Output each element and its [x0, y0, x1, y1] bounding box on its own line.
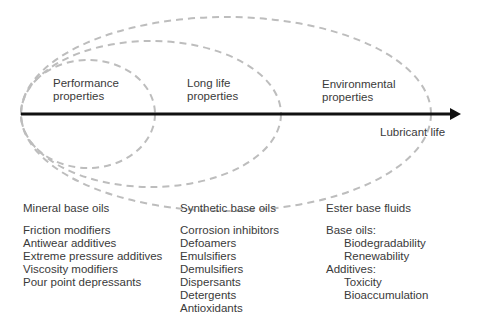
list-item: Antioxidants: [180, 302, 279, 315]
long-life-label: Long life properties: [187, 77, 238, 103]
list-item: Toxicity: [326, 276, 428, 289]
list-item: Biodegradability: [326, 237, 428, 250]
ester-column: Ester base fluids Base oils: Biodegradab…: [326, 202, 428, 302]
list-item: Friction modifiers: [23, 224, 162, 237]
column-heading: Synthetic base oils: [180, 202, 279, 215]
axis-label: Lubricant life: [380, 126, 445, 139]
list-item: Renewability: [326, 250, 428, 263]
list-item: Detergents: [180, 289, 279, 302]
environmental-label: Environmental properties: [322, 78, 396, 104]
environmental-label-line2: properties: [322, 91, 396, 104]
mineral-column: Mineral base oils Friction modifiers Ant…: [23, 202, 162, 289]
column-heading: Ester base fluids: [326, 202, 428, 215]
environmental-label-line1: Environmental: [322, 78, 396, 91]
list-item: Additives:: [326, 263, 428, 276]
list-item: Extreme pressure additives: [23, 250, 162, 263]
synthetic-column: Synthetic base oils Corrosion inhibitors…: [180, 202, 279, 315]
list-item: Emulsifiers: [180, 250, 279, 263]
list-item: Defoamers: [180, 237, 279, 250]
column-heading: Mineral base oils: [23, 202, 162, 215]
list-item: Base oils:: [326, 224, 428, 237]
list-item: Viscosity modifiers: [23, 263, 162, 276]
performance-label-line1: Performance: [53, 77, 119, 90]
list-item: Antiwear additives: [23, 237, 162, 250]
list-item: Pour point depressants: [23, 276, 162, 289]
arrow-head-icon: [450, 108, 461, 120]
performance-label-line2: properties: [53, 90, 119, 103]
list-item: Demulsifiers: [180, 263, 279, 276]
list-item: Dispersants: [180, 276, 279, 289]
long-life-label-line1: Long life: [187, 77, 238, 90]
performance-label: Performance properties: [53, 77, 119, 103]
list-item: Corrosion inhibitors: [180, 224, 279, 237]
list-item: Bioaccumulation: [326, 289, 428, 302]
long-life-label-line2: properties: [187, 90, 238, 103]
